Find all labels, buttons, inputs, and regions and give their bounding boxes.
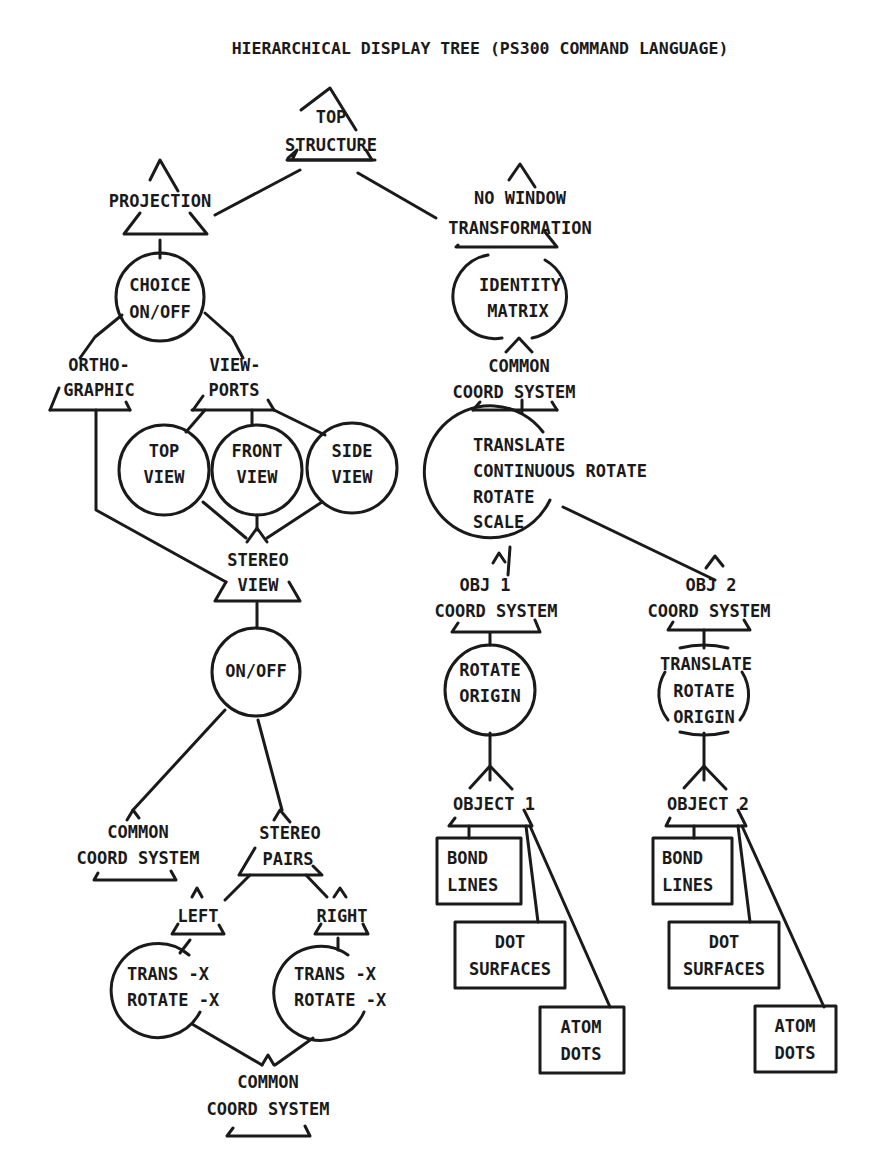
node-transforms[interactable]: TRANSLATE CONTINUOUS ROTATE ROTATE SCALE: [424, 406, 647, 538]
svg-text:ORTHO-: ORTHO-: [68, 355, 129, 375]
svg-text:VIEW: VIEW: [237, 467, 279, 487]
node-bond-lines-1[interactable]: BOND LINES: [437, 838, 521, 904]
svg-text:DOTS: DOTS: [775, 1043, 816, 1063]
svg-text:OBJECT 1: OBJECT 1: [453, 794, 535, 814]
svg-text:COMMON: COMMON: [488, 356, 549, 376]
node-projection[interactable]: PROJECTION: [109, 160, 211, 234]
node-front-view[interactable]: FRONT VIEW: [212, 425, 302, 515]
svg-text:VIEW: VIEW: [144, 467, 186, 487]
svg-text:VIEW-: VIEW-: [209, 355, 260, 375]
edge-viewports-top: [186, 410, 205, 432]
node-atom-dots-2[interactable]: ATOM DOTS: [755, 1006, 836, 1072]
node-viewports[interactable]: VIEW- PORTS: [192, 355, 274, 410]
svg-text:VIEW: VIEW: [332, 467, 374, 487]
node-object1[interactable]: OBJECT 1: [449, 766, 535, 826]
node-stereo-pairs[interactable]: STEREO PAIRS: [239, 810, 322, 875]
node-dot-surfaces-2[interactable]: DOT SURFACES: [669, 922, 779, 988]
edge-object1-atom: [530, 826, 610, 1007]
node-top-view[interactable]: TOP VIEW: [119, 425, 209, 515]
edge-pairs-right: [306, 875, 327, 897]
triangle-apex: [509, 164, 535, 187]
svg-text:ORIGIN: ORIGIN: [459, 686, 520, 706]
diagram-title: HIERARCHICAL DISPLAY TREE (PS300 COMMAND…: [232, 39, 729, 58]
edge-object2-atom: [742, 826, 824, 1007]
node-side-view[interactable]: SIDE VIEW: [307, 423, 397, 513]
svg-text:COORD SYSTEM: COORD SYSTEM: [453, 382, 576, 402]
svg-text:CONTINUOUS ROTATE: CONTINUOUS ROTATE: [473, 461, 647, 481]
edge-pairs-left: [225, 875, 250, 900]
svg-text:OBJECT 2: OBJECT 2: [667, 794, 749, 814]
node-top-structure[interactable]: TOP STRUCTURE: [285, 88, 377, 160]
edge-transforms-obj2: [563, 507, 715, 580]
svg-text:ON/OFF: ON/OFF: [225, 661, 286, 681]
svg-text:TOP: TOP: [316, 107, 347, 127]
svg-text:COMMON: COMMON: [107, 822, 168, 842]
edge-ortho-stereo: [96, 410, 226, 582]
svg-text:DOT: DOT: [495, 932, 526, 952]
svg-text:ROTATE -X: ROTATE -X: [294, 990, 387, 1010]
svg-text:STEREO: STEREO: [227, 550, 288, 570]
node-orthographic[interactable]: ORTHO- GRAPHIC: [50, 355, 135, 410]
svg-text:TOP: TOP: [149, 441, 180, 461]
svg-text:BOND: BOND: [447, 848, 488, 868]
svg-text:ROTATE: ROTATE: [459, 660, 520, 680]
node-trans-right[interactable]: TRANS -X ROTATE -X: [274, 946, 387, 1040]
node-left[interactable]: LEFT: [172, 888, 224, 934]
svg-text:NO WINDOW: NO WINDOW: [474, 188, 567, 208]
svg-text:RIGHT: RIGHT: [316, 906, 367, 926]
svg-text:MATRIX: MATRIX: [487, 301, 549, 321]
edge-transforms-obj1: [508, 547, 510, 575]
tree-shapes: TOP STRUCTURE PROJECTION NO WINDOW TRANS…: [50, 88, 836, 1136]
node-no-window[interactable]: NO WINDOW TRANSFORMATION: [448, 164, 591, 247]
svg-text:TRANS -X: TRANS -X: [127, 964, 210, 984]
node-trans-left[interactable]: TRANS -X ROTATE -X: [111, 944, 220, 1038]
node-choice[interactable]: CHOICE ON/OFF: [116, 253, 204, 341]
triangle-apex: [150, 160, 178, 191]
svg-text:COORD SYSTEM: COORD SYSTEM: [435, 601, 558, 621]
node-bond-lines-2[interactable]: BOND LINES: [653, 838, 732, 904]
edge-onoff-pairs: [258, 720, 282, 810]
edge-transleft-common: [192, 1024, 262, 1065]
svg-text:TRANS -X: TRANS -X: [294, 964, 377, 984]
node-rotate-origin[interactable]: ROTATE ORIGIN: [445, 645, 535, 735]
node-atom-dots-1[interactable]: ATOM DOTS: [540, 1007, 624, 1073]
svg-text:TRANSFORMATION: TRANSFORMATION: [448, 218, 591, 238]
svg-text:CHOICE: CHOICE: [129, 275, 190, 295]
svg-text:ROTATE: ROTATE: [473, 487, 534, 507]
edge-top-nowindow: [358, 173, 436, 218]
node-obj1-coord[interactable]: OBJ 1 COORD SYSTEM: [435, 553, 558, 632]
node-obj2-coord[interactable]: OBJ 2 COORD SYSTEM: [648, 556, 771, 630]
node-identity[interactable]: IDENTITY MATRIX: [453, 255, 567, 352]
edge-topview-stereo: [203, 502, 246, 538]
svg-text:VIEW: VIEW: [238, 575, 280, 595]
svg-text:OBJ 1: OBJ 1: [459, 575, 510, 595]
svg-text:BOND: BOND: [662, 848, 703, 868]
svg-text:COORD SYSTEM: COORD SYSTEM: [648, 601, 771, 621]
svg-text:DOT: DOT: [709, 932, 740, 952]
edge-choice-ortho: [80, 315, 122, 358]
svg-text:PORTS: PORTS: [208, 380, 259, 400]
node-stereo-view[interactable]: STEREO VIEW: [215, 528, 300, 601]
node-common-coord-left[interactable]: COMMON COORD SYSTEM: [77, 810, 200, 880]
svg-text:ORIGIN: ORIGIN: [673, 707, 734, 727]
svg-text:SCALE: SCALE: [473, 512, 524, 532]
svg-text:IDENTITY: IDENTITY: [479, 275, 562, 295]
svg-text:COORD SYSTEM: COORD SYSTEM: [207, 1099, 330, 1119]
svg-text:PROJECTION: PROJECTION: [109, 191, 211, 211]
node-dot-surfaces-1[interactable]: DOT SURFACES: [455, 922, 565, 988]
edge-sideview-stereo: [267, 502, 322, 538]
svg-text:DOTS: DOTS: [561, 1044, 602, 1064]
svg-text:GRAPHIC: GRAPHIC: [63, 380, 135, 400]
svg-text:ROTATE: ROTATE: [673, 681, 734, 701]
svg-text:ATOM: ATOM: [775, 1016, 816, 1036]
node-object2[interactable]: OBJECT 2: [666, 766, 749, 826]
node-translate-rotate-origin[interactable]: TRANSLATE ROTATE ORIGIN: [659, 645, 752, 735]
svg-text:FRONT: FRONT: [231, 441, 282, 461]
node-common-coord-right[interactable]: COMMON COORD SYSTEM: [453, 356, 576, 410]
node-onoff[interactable]: ON/OFF: [212, 628, 300, 716]
node-common-coord-bottom[interactable]: COMMON COORD SYSTEM: [207, 1055, 330, 1136]
svg-text:ROTATE -X: ROTATE -X: [127, 990, 220, 1010]
svg-text:OBJ 2: OBJ 2: [685, 575, 736, 595]
svg-text:SURFACES: SURFACES: [469, 959, 551, 979]
svg-text:STRUCTURE: STRUCTURE: [285, 135, 377, 155]
